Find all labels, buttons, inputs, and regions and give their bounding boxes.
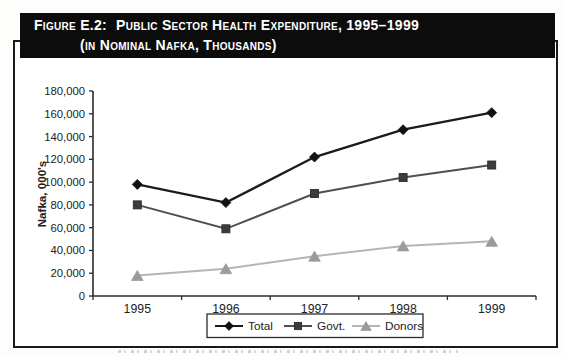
y-tick-label: 180,000: [44, 85, 85, 97]
data-point-diamond: [487, 108, 497, 118]
data-point-square: [488, 161, 496, 169]
y-tick-label: 0: [79, 290, 85, 302]
figure-label: Figure E.2:: [34, 17, 107, 33]
y-tick-label: 140,000: [44, 131, 85, 143]
figure-title: Public Sector Health Expenditure, 1995–1…: [116, 17, 419, 33]
y-tick-label: 160,000: [44, 108, 85, 120]
data-point-diamond: [398, 125, 408, 135]
data-point-square: [222, 225, 230, 233]
y-tick-label: 120,000: [44, 153, 85, 165]
x-tick-label: 1999: [478, 302, 506, 316]
legend-label-govt: Govt.: [317, 319, 345, 333]
x-tick-label: 1995: [124, 302, 152, 316]
y-tick-label: 60,000: [50, 222, 85, 234]
data-point-square: [294, 322, 301, 329]
chart-svg: 020,00040,00060,00080,000100,000120,0001…: [15, 42, 556, 346]
y-tick-label: 100,000: [44, 176, 85, 188]
data-point-diamond: [132, 179, 142, 189]
cut-off-caption-fragment: [118, 350, 458, 353]
data-point-square: [399, 174, 407, 182]
data-point-square: [311, 190, 319, 198]
y-axis-ticks: 020,00040,00060,00080,000100,000120,0001…: [44, 85, 93, 302]
figure-header-line1: Figure E.2:Public Sector Health Expendit…: [34, 15, 555, 35]
series-govt: [133, 161, 495, 233]
legend: TotalGovt.Donors: [207, 314, 423, 338]
y-tick-label: 40,000: [50, 244, 85, 256]
data-point-diamond: [310, 152, 320, 162]
series-donors: [132, 236, 498, 280]
data-point-square: [133, 201, 141, 209]
y-axis-title: Nafka, 000's: [35, 161, 48, 228]
y-tick-label: 80,000: [50, 199, 85, 211]
legend-label-total: Total: [248, 319, 273, 333]
legend-label-donors: Donors: [385, 319, 423, 333]
y-tick-label: 20,000: [50, 267, 85, 279]
x-axis-ticks: 19951996199719981999: [93, 296, 536, 316]
page: { "figure": { "label": "Figure E.2:", "t…: [0, 0, 565, 356]
data-point-diamond: [221, 198, 231, 208]
